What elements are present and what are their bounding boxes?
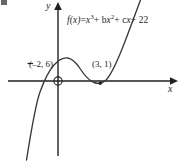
equation-plus3: + 22 [131, 15, 149, 25]
y-axis-arrowhead [54, 2, 62, 10]
x-axis-label: x [168, 84, 172, 94]
point-a-label: (–2, 6) [29, 60, 53, 69]
x-axis [8, 77, 178, 85]
equation-lhs: f(x) [67, 15, 81, 25]
equation-plus1: + b [94, 15, 107, 25]
equation-plus2: + c [114, 15, 126, 25]
cubic-graph-figure: y x f(x)=x3+ bx2+ cx+ 22 (–2, 6) (3, 1) [0, 0, 179, 163]
point-b-label: (3, 1) [92, 60, 112, 69]
y-axis-label: y [46, 1, 50, 11]
y-axis [54, 2, 62, 156]
point-b-marker [99, 82, 102, 85]
equation-annotation: f(x)=x3+ bx2+ cx+ 22 [67, 16, 148, 26]
